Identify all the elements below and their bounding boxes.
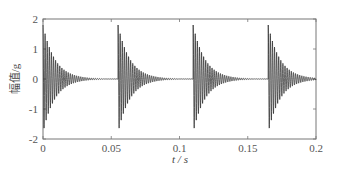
- x-tick-label: 0.15: [238, 142, 258, 154]
- x-axis-label: t / s: [172, 153, 188, 165]
- y-tick-label: -2: [29, 133, 38, 145]
- x-tick-label: 0.05: [102, 142, 122, 154]
- y-tick-label: -1: [29, 103, 38, 115]
- chart: 00.050.10.150.2 -2-1012 t / s 幅值/g: [0, 0, 338, 176]
- y-tick-label: 1: [33, 43, 39, 55]
- x-tick-label: 0.2: [309, 142, 323, 154]
- y-tick-label: 0: [33, 73, 39, 85]
- y-axis-label: 幅值/g: [9, 63, 21, 94]
- x-tick-label: 0: [40, 142, 46, 154]
- signal-line: [43, 25, 316, 128]
- y-tick-label: 2: [33, 13, 39, 25]
